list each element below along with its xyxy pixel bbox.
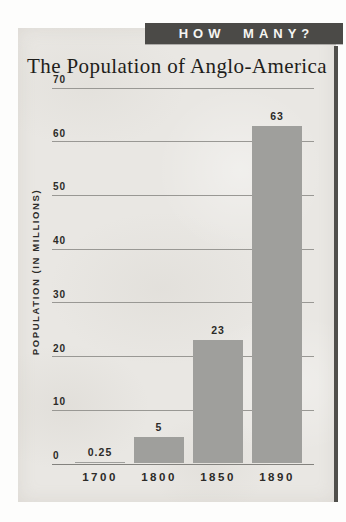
gridline-70: [52, 88, 314, 89]
y-axis-title: POPULATION (IN MILLIONS): [30, 173, 44, 371]
bar-1800: [134, 437, 184, 463]
bar-value-label-1800: 5: [129, 421, 189, 433]
bar-1850: [193, 340, 243, 463]
bar-1700: [75, 462, 125, 463]
bar-1890: [252, 126, 302, 463]
bar-value-label-1890: 63: [247, 110, 307, 122]
gridline-0: [52, 464, 314, 466]
scanned-page: HOW MANY? The Population of Anglo-Americ…: [0, 0, 346, 522]
y-tick-label-50: 50: [53, 181, 66, 192]
y-tick-label-60: 60: [53, 128, 66, 139]
y-tick-label-40: 40: [53, 235, 66, 246]
bar-value-label-1700: 0.25: [70, 446, 130, 458]
plot-area: 0102030405060700.25170051800231850631890: [52, 88, 314, 464]
y-tick-label-10: 10: [53, 396, 66, 407]
header-banner: HOW MANY?: [145, 23, 343, 44]
x-tick-label-1800: 1800: [127, 471, 191, 483]
y-tick-label-20: 20: [53, 343, 66, 354]
bar-value-label-1850: 23: [188, 324, 248, 336]
x-tick-label-1700: 1700: [68, 471, 132, 483]
x-tick-label-1850: 1850: [186, 471, 250, 483]
x-tick-label-1890: 1890: [245, 471, 309, 483]
y-tick-label-0: 0: [53, 450, 60, 461]
y-tick-label-70: 70: [53, 74, 66, 85]
banner-text: HOW MANY?: [174, 26, 315, 41]
page-edge-rule: [334, 46, 338, 502]
y-tick-label-30: 30: [53, 289, 66, 300]
